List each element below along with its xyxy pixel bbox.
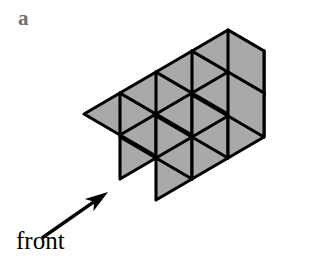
figure-panel-a: a front <box>0 0 317 264</box>
cube-group <box>84 30 264 200</box>
front-label: front <box>16 228 65 253</box>
isometric-block-assembly-drawing <box>0 0 317 264</box>
arrow-head-icon <box>85 192 108 211</box>
